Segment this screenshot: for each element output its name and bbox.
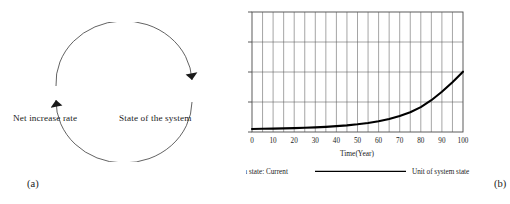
legend-label-unit: Unit of system state <box>412 168 469 176</box>
upper-arc <box>56 22 192 86</box>
x-tick-label-4: 40 <box>333 137 341 145</box>
y-axis: 4M 3M 4M 1M 0 <box>246 9 252 137</box>
panel-a-caption: (a) <box>27 178 39 189</box>
panel-b-caption: (b) <box>494 178 506 189</box>
chart-legend: System state: Current Unit of system sta… <box>246 168 469 176</box>
x-tick-label-2: 20 <box>291 137 299 145</box>
panel-a-causal-loop-diagram: Net increase rate State of the system (a… <box>0 0 246 204</box>
legend-label-current: System state: Current <box>246 168 288 176</box>
node-label-net-increase-rate: Net increase rate <box>13 113 77 123</box>
causal-loop-graphic <box>34 22 214 162</box>
x-tick-label-7: 70 <box>396 137 404 145</box>
x-tick-label-3: 30 <box>312 137 320 145</box>
x-tick-label-10: 100 <box>458 137 469 145</box>
x-tick-label-1: 10 <box>270 137 278 145</box>
x-tick-label-9: 90 <box>438 137 446 145</box>
x-tick-label-8: 80 <box>417 137 425 145</box>
x-tick-label-5: 50 <box>354 137 362 145</box>
x-tick-label-0: 0 <box>250 137 254 145</box>
panel-b-growth-chart: 4M 3M 4M 1M 0 0 10 20 30 40 50 60 70 80 … <box>246 0 510 204</box>
node-label-state-of-the-system: State of the system <box>119 113 192 123</box>
x-axis: 0 10 20 30 40 50 60 70 80 90 100 <box>250 137 469 145</box>
chart-graphic: 4M 3M 4M 1M 0 0 10 20 30 40 50 60 70 80 … <box>246 0 510 204</box>
x-axis-title: Time(Year) <box>340 149 374 158</box>
lower-arc <box>56 100 192 162</box>
x-tick-label-6: 60 <box>375 137 383 145</box>
